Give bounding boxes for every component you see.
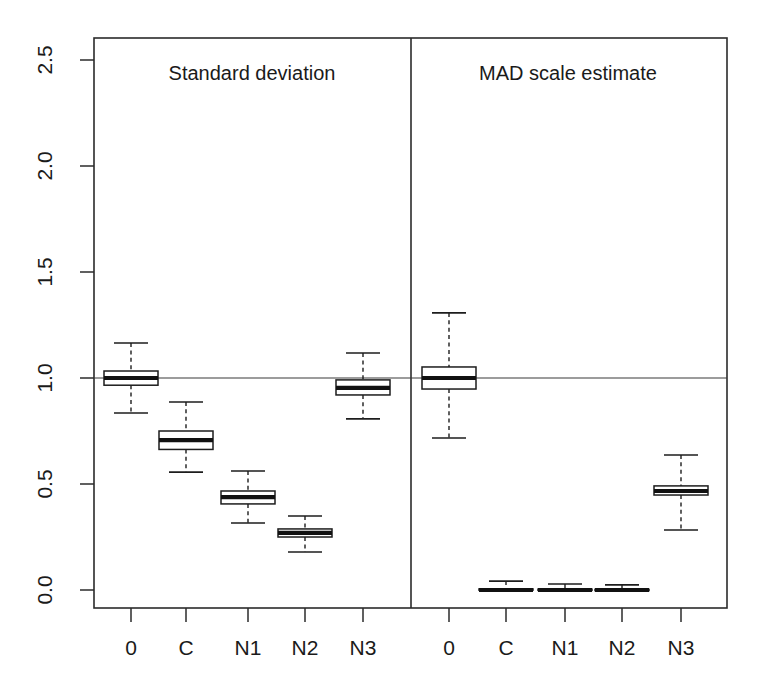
y-tick-label: 2.5 [33, 45, 56, 74]
box-left-panel-N2 [278, 516, 332, 552]
x-tick-label: N3 [668, 636, 695, 659]
box-left-panel-C [159, 402, 213, 472]
panel-title-right: MAD scale estimate [479, 62, 657, 84]
panel-title-left: Standard deviation [169, 62, 336, 84]
boxplot-svg: 2.5 2.0 1.5 1.0 0.5 0.0 0CN1N2N30CN1N2N3… [0, 0, 769, 695]
y-tick-label: 2.0 [33, 151, 56, 180]
box-right-panel-C [479, 581, 533, 590]
x-tick-label: C [178, 636, 193, 659]
box-left-panel-N3 [336, 353, 390, 419]
y-axis-labels: 2.5 2.0 1.5 1.0 0.5 0.0 [33, 45, 56, 604]
x-tick-label: 0 [443, 636, 455, 659]
y-tick-label: 1.0 [33, 363, 56, 392]
y-tick-label: 0.0 [33, 575, 56, 604]
box-left-panel-N1 [221, 471, 275, 523]
boxplot-series [104, 313, 708, 591]
x-tick-label: 0 [125, 636, 137, 659]
plot-frame [94, 38, 727, 608]
y-tick-label: 0.5 [33, 469, 56, 498]
box-left-panel-0 [104, 343, 158, 413]
x-axis-labels: 0CN1N2N30CN1N2N3 [125, 636, 694, 659]
box-right-panel-0 [422, 313, 476, 438]
boxplot-figure: 2.5 2.0 1.5 1.0 0.5 0.0 0CN1N2N30CN1N2N3… [0, 0, 769, 695]
x-tick-label: N1 [552, 636, 579, 659]
x-tick-label: N1 [235, 636, 262, 659]
x-tick-label: N2 [292, 636, 319, 659]
x-tick-label: C [498, 636, 513, 659]
y-tick-label: 1.5 [33, 257, 56, 286]
x-tick-label: N3 [350, 636, 377, 659]
box-right-panel-N2 [595, 585, 649, 591]
x-axis-ticks [131, 608, 681, 622]
x-tick-label: N2 [609, 636, 636, 659]
box-right-panel-N3 [654, 455, 708, 530]
box-right-panel-N1 [538, 584, 592, 590]
y-axis-ticks [80, 60, 94, 590]
